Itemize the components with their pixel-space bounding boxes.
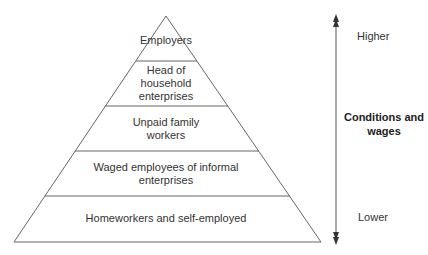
axis-title-line: wages [340,124,428,138]
tier-homeworkers: Homeworkers and self-employed [46,212,286,225]
tier-head-of-household: Head of household enterprises [106,64,226,103]
lower-label: Lower [358,211,388,224]
tier-line: Waged employees of informal [66,161,266,174]
tier-line: Head of [106,64,226,77]
conditions-axis-arrow [333,14,339,245]
higher-label: Higher [357,30,389,43]
tier-waged-employees: Waged employees of informal enterprises [66,161,266,187]
tier-line: workers [96,129,236,142]
tier-line: enterprises [106,90,226,103]
conditions-and-wages-title: Conditions and wages [340,110,428,138]
tier-line: Homeworkers and self-employed [46,212,286,225]
tier-employers-line: Employers [126,34,206,47]
tier-line: Unpaid family [96,116,236,129]
tier-line: enterprises [66,174,266,187]
axis-title-line: Conditions and [340,110,428,124]
tier-unpaid-family: Unpaid family workers [96,116,236,142]
tier-line: household [106,77,226,90]
tier-employers: Employers [126,34,206,47]
